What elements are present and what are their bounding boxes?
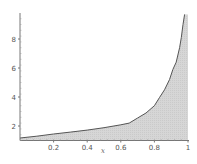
y-tick-label: 8: [12, 36, 16, 44]
x-tick-label: 1: [186, 144, 190, 152]
x-axis-label: x: [101, 147, 105, 155]
x-tick-label: 0.2: [48, 144, 59, 152]
x-tick-label: 0.4: [82, 144, 94, 152]
area-fill: [20, 14, 188, 140]
y-tick-label: 4: [12, 94, 17, 102]
y-tick-label: 6: [12, 65, 17, 73]
x-tick-label: 0.6: [115, 144, 127, 152]
y-tick-label: 2: [12, 123, 16, 131]
y-axis-ticks: 2468: [12, 36, 20, 131]
x-tick-label: 0.8: [149, 144, 160, 152]
area-chart: 0.20.40.60.81 2468 x: [0, 0, 197, 164]
x-axis-ticks: 0.20.40.60.81: [48, 141, 190, 153]
